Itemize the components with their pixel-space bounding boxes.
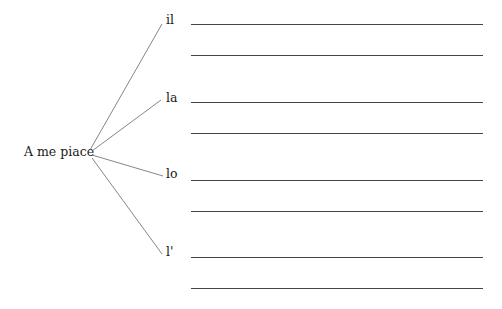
article-la: la xyxy=(166,90,177,105)
answer-line-il-2[interactable] xyxy=(191,55,483,56)
branch-lines xyxy=(0,0,502,309)
answer-line-l-1[interactable] xyxy=(191,257,483,258)
answer-line-il-1[interactable] xyxy=(191,24,483,25)
article-lo: lo xyxy=(166,166,178,181)
answer-line-la-1[interactable] xyxy=(191,102,483,103)
answer-line-lo-2[interactable] xyxy=(191,211,483,212)
answer-line-la-2[interactable] xyxy=(191,133,483,134)
answer-line-l-2[interactable] xyxy=(191,288,483,289)
article-l-apostrophe: l' xyxy=(166,244,173,259)
article-il: il xyxy=(166,12,174,27)
answer-line-lo-1[interactable] xyxy=(191,180,483,181)
